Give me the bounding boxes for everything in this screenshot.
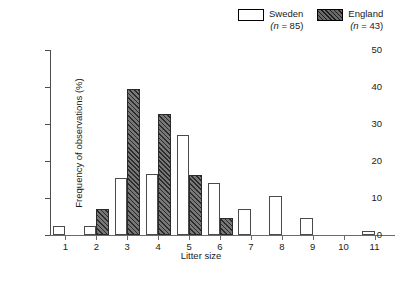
x-tick-label-1: 1 [63, 242, 68, 252]
chart-legend: Sweden (n = 85) England (n = 43) [238, 8, 383, 31]
y-tick-label-40: 40 [371, 82, 382, 92]
bar-sweden-litter-6 [208, 183, 221, 235]
legend-sample-size-england: (n = 43) [348, 20, 383, 32]
y-axis-title: Frequency of observations (%) [73, 78, 84, 207]
y-tick-30 [45, 124, 50, 125]
y-tick-40 [45, 87, 50, 88]
x-tick-7 [251, 235, 252, 240]
legend-label-england: England (n = 43) [348, 8, 383, 31]
bar-sweden-litter-1 [53, 226, 66, 235]
y-tick-label-20: 20 [371, 156, 382, 166]
x-tick-label-7: 7 [248, 242, 253, 252]
open-swatch-icon [238, 9, 264, 21]
y-tick-label-10: 10 [371, 193, 382, 203]
x-axis-title: Litter size [181, 250, 222, 261]
x-tick-11 [375, 235, 376, 240]
bar-england-litter-3 [127, 89, 140, 235]
bar-england-litter-4 [158, 114, 171, 235]
legend-label-sweden: Sweden (n = 85) [269, 8, 303, 31]
x-tick-label-8: 8 [279, 242, 284, 252]
bar-england-litter-6 [220, 218, 233, 235]
x-tick-label-4: 4 [156, 242, 161, 252]
plot-area: Frequency of observations (%) 0102030405… [50, 50, 390, 235]
x-tick-label-9: 9 [310, 242, 315, 252]
x-tick-label-2: 2 [94, 242, 99, 252]
legend-series-name-england: England [348, 8, 383, 19]
x-tick-6 [220, 235, 221, 240]
bar-sweden-litter-9 [300, 218, 313, 235]
bar-sweden-litter-3 [115, 178, 128, 235]
y-tick-label-50: 50 [371, 45, 382, 55]
x-tick-2 [96, 235, 97, 240]
x-tick-5 [189, 235, 190, 240]
bar-sweden-litter-8 [269, 196, 282, 235]
x-tick-8 [282, 235, 283, 240]
bar-sweden-litter-5 [177, 135, 190, 235]
x-tick-1 [65, 235, 66, 240]
legend-sample-size-sweden: (n = 85) [269, 20, 303, 32]
x-tick-label-10: 10 [338, 242, 349, 252]
x-tick-9 [313, 235, 314, 240]
bar-sweden-litter-11 [362, 231, 375, 235]
y-tick-label-30: 30 [371, 119, 382, 129]
legend-item-sweden: Sweden (n = 85) [238, 8, 303, 31]
y-tick-20 [45, 161, 50, 162]
y-tick-0 [45, 235, 50, 236]
x-tick-4 [158, 235, 159, 240]
bar-england-litter-5 [189, 175, 202, 235]
x-tick-label-3: 3 [125, 242, 130, 252]
x-tick-label-11: 11 [370, 242, 380, 252]
bar-sweden-litter-4 [146, 174, 159, 235]
litter-size-frequency-chart: Sweden (n = 85) England (n = 43) Frequen… [0, 0, 402, 288]
y-tick-50 [45, 50, 50, 51]
legend-item-england: England (n = 43) [317, 8, 383, 31]
bar-sweden-litter-2 [84, 226, 97, 235]
bar-england-litter-2 [96, 209, 109, 235]
bar-sweden-litter-7 [238, 209, 251, 235]
y-tick-10 [45, 198, 50, 199]
x-tick-10 [344, 235, 345, 240]
x-tick-3 [127, 235, 128, 240]
y-tick-label-0: 0 [377, 230, 382, 240]
legend-series-name-sweden: Sweden [269, 8, 303, 19]
hatched-swatch-icon [317, 9, 343, 21]
